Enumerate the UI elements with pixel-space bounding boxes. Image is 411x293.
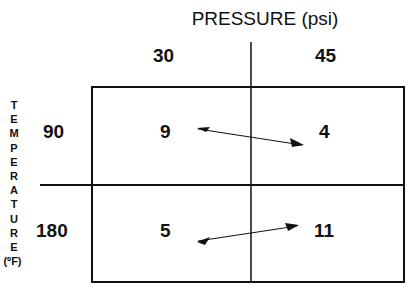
pressure-axis-title: PRESSURE (psi) xyxy=(150,8,380,30)
cell-180-30: 5 xyxy=(160,220,171,242)
axis-letter: T xyxy=(4,98,24,112)
axis-letter: A xyxy=(4,183,24,197)
temperature-axis-title: T E M P E R A T U R E (ºF) xyxy=(4,98,24,268)
column-header-30: 30 xyxy=(153,45,174,67)
axis-letter: E xyxy=(4,112,24,126)
axis-letter: U xyxy=(4,212,24,226)
arrow-5-to-11 xyxy=(197,223,299,245)
axis-letter: E xyxy=(4,240,24,254)
axis-letter: T xyxy=(4,197,24,211)
row-header-90: 90 xyxy=(43,121,64,143)
row-header-180: 180 xyxy=(36,220,68,242)
axis-letter: R xyxy=(4,226,24,240)
axis-letter: R xyxy=(4,169,24,183)
cell-90-30: 9 xyxy=(160,121,171,143)
axis-letter: P xyxy=(4,141,24,155)
column-header-45: 45 xyxy=(315,45,336,67)
axis-letter: E xyxy=(4,155,24,169)
cell-90-45: 4 xyxy=(319,121,330,143)
axis-letter: M xyxy=(4,126,24,140)
grid-lines xyxy=(0,0,411,293)
cell-180-45: 11 xyxy=(314,220,334,242)
axis-letter: (ºF) xyxy=(1,254,24,268)
